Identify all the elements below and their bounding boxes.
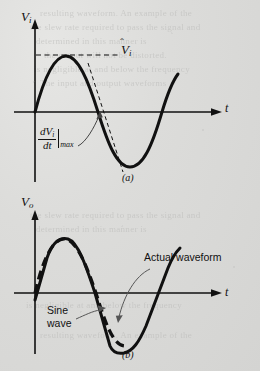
panel-b-y-axis-label: Vo [21,194,33,210]
panel-b-plot [0,196,260,371]
panel-a-x-axis-arrowhead [211,108,222,115]
panel-b-caption: (b) [122,349,134,360]
panel-a-caption: (a) [122,172,134,183]
panel-a-slope-leader-arrow [78,116,99,146]
figure-page: resulting waveform. An example of the th… [0,0,260,371]
panel-a-peak-voltage-label: ̂ Vi [121,42,131,58]
panel-b-x-axis-label: t [225,285,228,300]
panel-b-y-axis-arrowhead [31,210,38,220]
panel-a-max-slope-annotation: dVi dt max [38,126,74,151]
panel-a-plot [0,0,260,195]
panel-a-y-axis-label: Vi [21,9,31,25]
panel-a-x-axis-label: t [225,101,228,116]
panel-b-sine-wave-label-line2: wave [47,317,72,329]
panel-b-x-axis-arrowhead [211,289,222,296]
panel-a-y-axis-arrowhead [31,19,38,29]
slope-numerator: dVi [38,126,56,140]
slope-denominator: dt [38,140,56,151]
slope-max-subscript: max [60,140,73,149]
panel-b-sine-wave-label-line1: Sine [47,304,68,316]
panel-b-actual-waveform-label: Actual waveform [144,251,222,263]
panel-a-max-slope-tangent [88,63,123,172]
panel-b-sine-leader-arrow [76,310,100,319]
panel-b-actual-leader-arrowhead [116,315,123,323]
